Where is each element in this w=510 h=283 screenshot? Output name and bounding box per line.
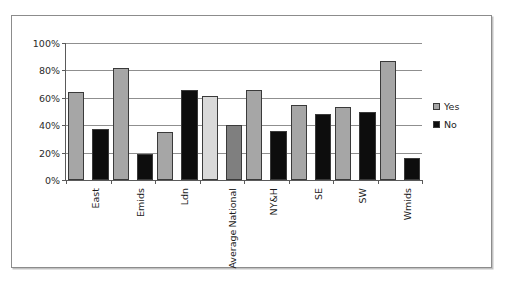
x-axis-tick — [289, 180, 290, 184]
bar-group — [289, 43, 334, 180]
y-axis-tick-label: 40% — [39, 120, 60, 131]
x-axis-label-line: Emids — [135, 188, 146, 217]
plot-area: 0%20%40%60%80%100% EastEmidsLdnNationalA… — [65, 43, 422, 181]
x-axis-label-line: East — [90, 188, 101, 209]
x-axis-label: SE — [314, 188, 324, 200]
y-axis-tick-label: 0% — [45, 175, 60, 186]
x-axis-label-line: National — [228, 188, 238, 228]
y-axis-tick-label: 80% — [39, 65, 60, 76]
legend-item-yes[interactable]: Yes — [433, 101, 459, 112]
bar-yes — [380, 61, 396, 180]
bar-group — [200, 43, 245, 180]
x-axis-label: Wmids — [403, 188, 413, 220]
bar-group — [244, 43, 289, 180]
bar-no — [181, 90, 197, 180]
x-axis-label: NationalAverage — [228, 188, 238, 269]
bar-group — [155, 43, 200, 180]
x-axis-label: Ldn — [180, 188, 190, 205]
x-axis-tick — [111, 180, 112, 184]
bar-group — [378, 43, 423, 180]
bar-yes — [202, 96, 218, 180]
bar-group — [66, 43, 111, 180]
x-axis-label: SW — [358, 188, 368, 203]
x-axis-label-line: SW — [357, 188, 368, 203]
x-axis-tick — [155, 180, 156, 184]
bar-no — [270, 131, 286, 180]
x-axis-label-line: Average — [228, 230, 238, 269]
bar-yes — [113, 68, 129, 180]
x-axis-label: NY&H — [269, 188, 279, 215]
bar-no — [359, 112, 375, 181]
x-axis-label: Emids — [136, 188, 146, 217]
legend-swatch-icon — [433, 103, 440, 110]
bar-yes — [335, 107, 351, 180]
bar-no — [226, 125, 242, 180]
bars-layer — [66, 43, 422, 180]
x-axis-tick — [244, 180, 245, 184]
legend-swatch-icon — [433, 121, 440, 128]
y-axis-tick-label: 20% — [39, 147, 60, 158]
chart-figure: 0%20%40%60%80%100% EastEmidsLdnNationalA… — [11, 15, 492, 268]
bar-yes — [157, 132, 173, 180]
x-axis-tick — [200, 180, 201, 184]
x-axis-label-line: SE — [313, 188, 324, 200]
y-axis-tick-label: 60% — [39, 92, 60, 103]
x-axis-label: East — [91, 188, 101, 209]
x-axis-tick — [66, 180, 67, 184]
bar-yes — [68, 92, 84, 180]
bar-no — [137, 154, 153, 180]
x-axis-tick — [422, 180, 423, 184]
x-axis-tick — [333, 180, 334, 184]
x-axis-label-line: NY&H — [268, 188, 279, 215]
chart-legend: YesNo — [433, 101, 459, 137]
legend-label: Yes — [444, 101, 459, 112]
bar-yes — [291, 105, 307, 180]
bar-no — [92, 129, 108, 180]
x-axis-label-line: Wmids — [402, 188, 413, 220]
legend-label: No — [444, 119, 457, 130]
y-axis-tick-label: 100% — [33, 38, 60, 49]
legend-item-no[interactable]: No — [433, 119, 459, 130]
x-axis-label-line: Ldn — [179, 188, 190, 205]
bar-yes — [246, 90, 262, 180]
bar-no — [404, 158, 420, 180]
x-axis-tick — [378, 180, 379, 184]
bar-group — [333, 43, 378, 180]
bar-group — [111, 43, 156, 180]
bar-no — [315, 114, 331, 180]
